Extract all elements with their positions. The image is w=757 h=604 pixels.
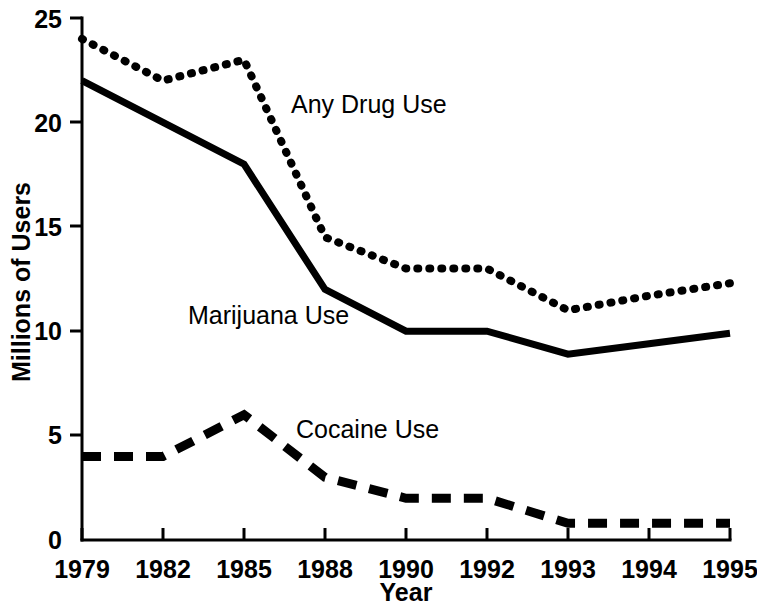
- x-tick-label-1995: 1995: [702, 555, 757, 583]
- y-tick-label-15: 15: [34, 213, 62, 241]
- series-label-marijuana-use: Marijuana Use: [188, 301, 349, 329]
- x-tick-label-1994: 1994: [621, 555, 677, 583]
- x-tick-marks: [82, 528, 730, 540]
- x-tick-label-1979: 1979: [54, 555, 110, 583]
- x-tick-label-1982: 1982: [135, 555, 191, 583]
- y-tick-label-0: 0: [48, 526, 62, 554]
- y-tick-label-10: 10: [34, 317, 62, 345]
- y-axis-title: Millions of Users: [7, 182, 35, 382]
- chart-container: Millions of Users 25 20 15 10 5 0: [0, 0, 757, 604]
- series-label-any-drug-use: Any Drug Use: [291, 90, 447, 118]
- series-line-marijuana-use: [82, 81, 730, 355]
- x-tick-label-1985: 1985: [216, 555, 272, 583]
- x-axis-title: Year: [380, 578, 433, 604]
- y-tick-marks: [70, 18, 82, 435]
- y-tick-label-25: 25: [34, 5, 62, 33]
- line-chart-svg: Millions of Users 25 20 15 10 5 0: [0, 0, 757, 604]
- y-tick-label-5: 5: [48, 421, 62, 449]
- x-tick-label-1992: 1992: [459, 555, 515, 583]
- y-tick-label-20: 20: [34, 109, 62, 137]
- series-line-any-drug-use: [82, 39, 730, 310]
- x-tick-label-1988: 1988: [297, 555, 353, 583]
- x-tick-label-1993: 1993: [540, 555, 596, 583]
- series-label-cocaine-use: Cocaine Use: [296, 415, 439, 443]
